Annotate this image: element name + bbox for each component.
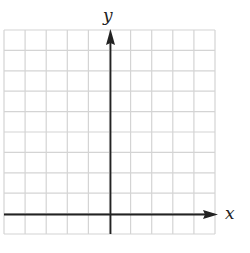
x-axis-arrow-icon bbox=[203, 210, 218, 219]
coordinate-plane: x y bbox=[0, 0, 250, 253]
grid-lines bbox=[4, 30, 215, 234]
y-axis-arrow-icon bbox=[106, 29, 115, 45]
x-axis-label: x bbox=[225, 203, 235, 223]
y-axis-label: y bbox=[102, 5, 113, 25]
